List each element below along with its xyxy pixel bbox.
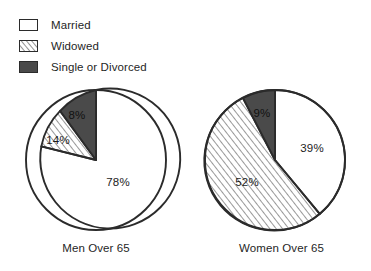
pie-women-svg: 39% 52% 9% [192,0,371,248]
pie-men-value-single-or-divorced: 8% [68,109,85,121]
pie-men-value-widowed: 14% [46,134,70,146]
pie-women-value-married: 39% [300,142,324,154]
pie-men-caption: Men Over 65 [0,242,192,254]
figure-pie-charts: Married Widowed Single or Divorced [0,0,371,271]
pie-women-caption: Women Over 65 [192,242,371,254]
pie-chart-women: 39% 52% 9% Women Over 65 [192,0,371,271]
pie-chart-men: 78% 14% 8% Men Over 65 [0,0,192,271]
pie-men-svg: 78% 14% 8% [0,0,192,248]
pie-men-value-married: 78% [106,176,130,188]
pie-women-value-widowed: 52% [235,176,259,188]
pie-women-value-single-or-divorced: 9% [253,107,270,119]
